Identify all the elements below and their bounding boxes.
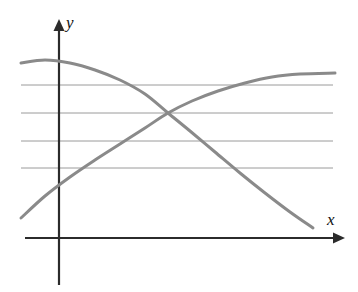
x-axis-label: x — [327, 211, 335, 228]
graph-canvas — [0, 0, 358, 292]
increasing-curve — [21, 73, 335, 218]
arrow-right-icon — [333, 233, 345, 244]
graph-figure: y x — [0, 0, 358, 292]
axis-group — [25, 19, 345, 285]
arrow-up-icon — [54, 19, 65, 31]
gridline-group — [21, 85, 333, 168]
y-axis-label: y — [66, 14, 74, 31]
